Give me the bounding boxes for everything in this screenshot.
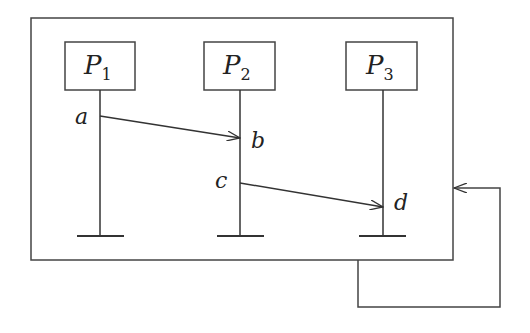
message-a-to-b <box>100 116 240 138</box>
process-label-p3: P3 <box>366 50 394 84</box>
diagram-canvas <box>0 0 530 333</box>
process-label-p1: P1 <box>84 50 112 84</box>
process-label-p2: P2 <box>223 50 251 84</box>
event-label-b: b <box>251 128 265 153</box>
event-label-d: d <box>394 190 408 215</box>
event-label-c: c <box>215 168 227 193</box>
message-c-to-d <box>240 183 383 207</box>
event-label-a: a <box>75 104 88 129</box>
